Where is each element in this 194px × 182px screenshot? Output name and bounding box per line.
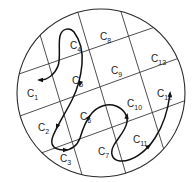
cell-label-c12: C12 <box>157 88 172 101</box>
cell-label-c8: C8 <box>100 31 111 44</box>
cell-label-c7: C7 <box>98 146 109 159</box>
cell-label-c10: C10 <box>127 98 142 111</box>
cell-label-c5: C5 <box>72 75 83 88</box>
grid-line-v3 <box>109 0 176 182</box>
cell-label-c2: C2 <box>38 122 49 135</box>
cell-label-c9: C9 <box>111 65 122 78</box>
arrowhead-icon <box>37 78 43 82</box>
arrowhead-icon <box>63 148 69 152</box>
cell-label-c11: C11 <box>133 134 148 147</box>
cell-label-c1: C1 <box>27 88 38 101</box>
cell-trajectory-diagram: C1C2C3C4C5C6C7C8C9C10C11C12C13 <box>0 0 194 182</box>
cell-label-c13: C13 <box>151 53 166 66</box>
cell-label-c6: C6 <box>80 111 91 124</box>
trajectory-path <box>40 29 170 161</box>
cell-label-c3: C3 <box>60 153 71 166</box>
